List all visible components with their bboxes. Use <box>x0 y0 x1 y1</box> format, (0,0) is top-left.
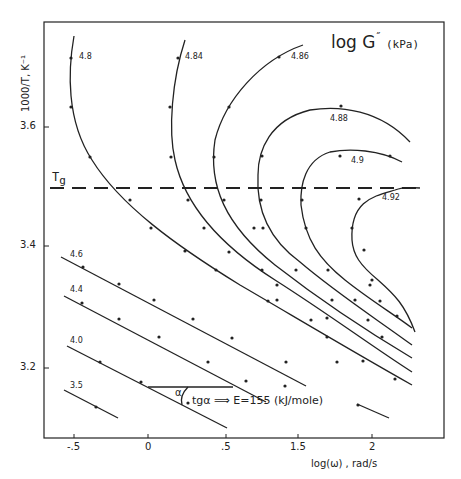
y-tick-3.4: 3.4 <box>20 239 36 250</box>
title-unit: (kPa) <box>386 38 419 51</box>
title-main: log G <box>331 32 376 52</box>
curve-label-4.0: 4.0 <box>70 336 83 345</box>
curve-4.8 <box>70 36 412 385</box>
curve-label-4.9: 4.9 <box>351 156 364 165</box>
y-ticks <box>44 127 49 368</box>
activation-energy-annotation: tgα ⟹ E=155 (kJ/mole) <box>192 394 323 407</box>
curve-label-4.4: 4.4 <box>70 285 83 294</box>
chart: log G˝ (kPa) 1000/T, K⁻¹ 3.6 3.4 3.2 -.5… <box>0 0 461 479</box>
y-tick-3.6: 3.6 <box>20 120 36 131</box>
data-points <box>69 55 398 408</box>
tg-label: Tg <box>52 170 66 187</box>
x-tick-0: 0 <box>145 441 151 452</box>
curve-label-4.88: 4.88 <box>330 114 348 123</box>
chart-canvas <box>0 0 461 479</box>
curve-label-3.5: 3.5 <box>70 381 83 390</box>
title-super: ˝ <box>376 32 381 43</box>
curve-label-4.92: 4.92 <box>382 193 400 202</box>
tg-label-sub: g <box>59 174 66 187</box>
x-tick-0.5: .5 <box>221 441 231 452</box>
curve-4.9 <box>301 150 412 328</box>
chart-title: log G˝ (kPa) <box>331 32 419 52</box>
curve-label-4.8: 4.8 <box>79 52 92 61</box>
curve-label-4.84: 4.84 <box>185 52 203 61</box>
x-axis-label: log(ω) , rad/s <box>311 458 377 469</box>
curve-extra-segment <box>357 404 389 418</box>
x-tick-1.5: 1.5 <box>290 441 306 452</box>
y-axis-label: 1000/T, K⁻¹ <box>20 55 31 112</box>
curve-4.84 <box>172 40 412 372</box>
x-tick-2: 2 <box>369 441 375 452</box>
curve-label-4.86: 4.86 <box>291 52 309 61</box>
curve-3.5 <box>64 390 118 418</box>
x-tick-neg-0.5: -.5 <box>67 441 80 452</box>
curve-label-4.6: 4.6 <box>70 250 83 259</box>
series-curves <box>61 36 420 428</box>
y-tick-3.2: 3.2 <box>20 361 36 372</box>
angle-alpha-label: α <box>175 387 182 398</box>
plot-frame <box>44 22 444 438</box>
